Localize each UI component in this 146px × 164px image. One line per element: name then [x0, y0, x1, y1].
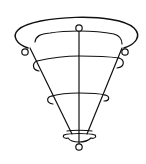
right-side-strut	[87, 48, 122, 134]
middle-ring-right-loop	[104, 95, 109, 101]
right-rim-knob	[122, 49, 128, 55]
middle-ring-left-loop	[48, 96, 53, 104]
bottom-knob	[76, 144, 82, 150]
left-rim-knob	[22, 49, 28, 55]
upper-ring	[37, 56, 119, 61]
outer-rim-arc	[15, 17, 137, 48]
cone-wireframe-diagram: inverted cone wire frame	[0, 0, 146, 164]
top-knob	[76, 25, 82, 31]
